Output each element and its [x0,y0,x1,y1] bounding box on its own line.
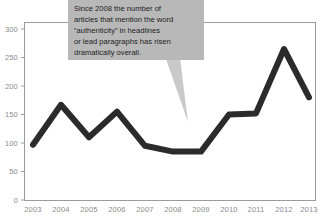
x-tick-label: 2005 [80,205,98,214]
callout-line-5: dramatically overall. [74,48,141,57]
x-axis-labels: 2003 2004 2005 2006 2007 2008 2009 2010 … [24,205,318,214]
y-tick-label: 300 [5,25,18,34]
y-tick-label: 100 [5,139,18,148]
x-tick-label: 2004 [52,205,70,214]
y-tick-label: 150 [5,110,18,119]
line-chart: 300 250 200 150 100 50 0 2003 2004 2005 … [0,0,321,219]
y-tick-label: 200 [5,82,18,91]
x-tick-label: 2008 [164,205,182,214]
x-tick-label: 2010 [220,205,238,214]
callout-line-2: articles that mention the word [74,15,173,24]
y-tick-label: 50 [9,167,18,176]
x-tick-label: 2003 [24,205,42,214]
callout-line-3: “authenticity” in headlines [74,26,160,35]
y-axis-labels: 300 250 200 150 100 50 0 [5,25,18,205]
x-tick-label: 2013 [300,205,318,214]
x-tick-label: 2007 [136,205,154,214]
chart-canvas: 300 250 200 150 100 50 0 2003 2004 2005 … [0,0,321,219]
callout-line-4: or lead paragraphs has risen [74,37,171,46]
y-axis-ticks [21,29,25,200]
callout-line-1: Since 2008 the number of [74,4,162,13]
y-tick-label: 0 [14,196,18,205]
x-tick-label: 2012 [275,205,293,214]
x-tick-label: 2006 [108,205,126,214]
x-tick-label: 2011 [248,205,265,214]
y-tick-label: 250 [5,53,18,62]
x-tick-label: 2009 [192,205,210,214]
